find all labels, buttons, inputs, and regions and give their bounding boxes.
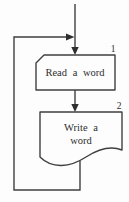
entry-arrowhead-icon: [71, 47, 78, 55]
write-node-label-line2: word: [70, 135, 92, 146]
write-node-number: 2: [117, 101, 122, 111]
read-node-label: Read a word: [45, 67, 105, 78]
read-to-write-arrowhead-icon: [71, 104, 78, 112]
loop-arrowhead-icon: [66, 33, 75, 40]
flowchart-canvas: 1 Read a word 2 Write a word: [0, 0, 129, 202]
flowchart-diagram: 1 Read a word 2 Write a word: [0, 0, 129, 202]
write-node-label-line1: Write a: [64, 122, 98, 133]
read-node-number: 1: [111, 44, 116, 54]
